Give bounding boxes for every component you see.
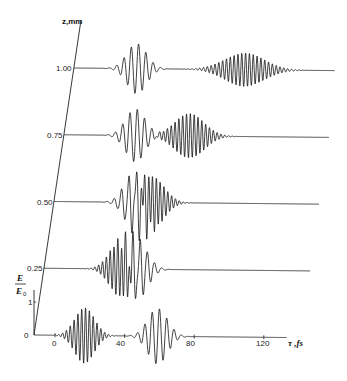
chart-figure: z,mm 1.00 0.75 0.50 0.25 0 E E 0 1 0 40 … xyxy=(0,0,347,381)
trace-z=1.00 xyxy=(74,44,335,93)
amplitude-tick-label-1: 1 xyxy=(28,298,33,307)
trace-z=0.25 xyxy=(44,231,310,298)
amplitude-label-numerator: E xyxy=(16,273,23,283)
tau-tick-label-40: 40 xyxy=(116,339,125,348)
z-tick-label-0.50: 0.50 xyxy=(37,198,53,207)
tau-tick-label-120: 120 xyxy=(256,339,270,348)
z-axis-label: z,mm xyxy=(62,17,82,26)
trace-z=0.50 xyxy=(54,172,319,241)
z-tick-label-0: 0 xyxy=(24,331,29,340)
trace-z=0 xyxy=(34,308,287,364)
traces xyxy=(34,44,335,364)
z-tick-label-0.25: 0.25 xyxy=(27,264,43,273)
amplitude-label-denominator: E xyxy=(15,286,22,296)
tau-tick-label-0: 0 xyxy=(52,339,57,348)
amplitude-label-subscript: 0 xyxy=(23,291,27,297)
trace-z=0.75 xyxy=(64,109,329,161)
z-tick-label-1.00: 1.00 xyxy=(56,64,72,73)
tau-tick-label-80: 80 xyxy=(186,339,195,348)
tau-axis-label: τ ,fs xyxy=(288,338,303,348)
waterfall-plot: z,mm 1.00 0.75 0.50 0.25 0 E E 0 1 0 40 … xyxy=(0,0,347,381)
z-tick-label-0.75: 0.75 xyxy=(47,131,63,140)
